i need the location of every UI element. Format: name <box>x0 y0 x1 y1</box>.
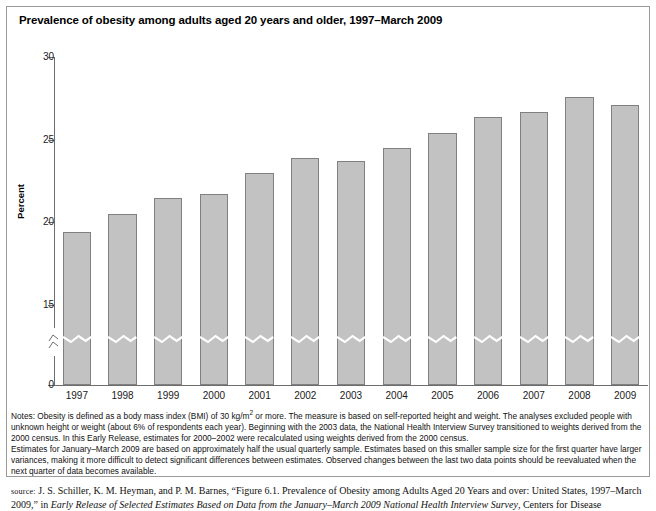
bar-2003 <box>337 161 365 385</box>
bar-chart: Percent 015202530 1997199819992000200120… <box>0 0 656 404</box>
notes-paragraph-2: Estimates for January–March 2009 are bas… <box>11 444 647 477</box>
x-tick-label-2001: 2001 <box>237 390 283 401</box>
x-tick-label-2004: 2004 <box>374 390 420 401</box>
bar-2001 <box>245 173 273 385</box>
notes-line1a: Notes: Obesity is defined as a body mass… <box>11 411 249 421</box>
bar-2006 <box>474 117 502 385</box>
x-tick-label-2000: 2000 <box>191 390 237 401</box>
figure-page: Prevalence of obesity among adults aged … <box>0 0 656 511</box>
x-tick-label-1999: 1999 <box>145 390 191 401</box>
figure-notes: Notes: Obesity is defined as a body mass… <box>11 408 647 478</box>
bar-2008 <box>565 97 593 385</box>
x-tick-label-2007: 2007 <box>511 390 557 401</box>
notes-paragraph-1: Notes: Obesity is defined as a body mass… <box>11 408 647 443</box>
bar-2004 <box>383 148 411 385</box>
bar-2000 <box>200 194 228 385</box>
figure-source: source: J. S. Schiller, K. M. Heyman, an… <box>11 484 651 511</box>
source-text-b: , Centers for Disease <box>518 499 601 510</box>
source-text-italic: Early Release of Selected Estimates Base… <box>51 499 518 510</box>
bar-1999 <box>154 198 182 385</box>
x-tick-label-2005: 2005 <box>420 390 466 401</box>
notes-source-divider <box>6 476 650 477</box>
bar-2007 <box>520 112 548 385</box>
x-tick-label-2009: 2009 <box>602 390 648 401</box>
x-tick-label-1997: 1997 <box>54 390 100 401</box>
bar-1997 <box>63 232 91 385</box>
x-tick-label-2003: 2003 <box>328 390 374 401</box>
bars-group: 1997199819992000200120022003200420052006… <box>0 0 656 404</box>
bar-2005 <box>428 133 456 385</box>
bar-2002 <box>291 158 319 385</box>
source-label: source: <box>11 487 36 496</box>
x-tick-label-2002: 2002 <box>282 390 328 401</box>
x-tick-label-1998: 1998 <box>100 390 146 401</box>
x-tick-label-2006: 2006 <box>465 390 511 401</box>
bar-2009 <box>611 105 639 385</box>
x-tick-label-2008: 2008 <box>557 390 603 401</box>
bar-1998 <box>108 214 136 385</box>
